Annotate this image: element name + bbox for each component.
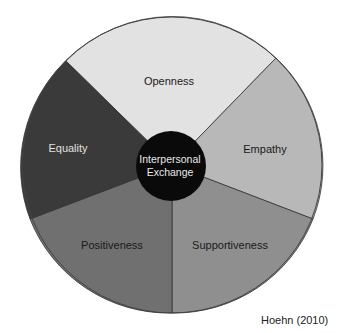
- label-supportiveness: Supportiveness: [192, 239, 268, 251]
- label-empathy: Empathy: [243, 143, 287, 155]
- source-credit: Hoehn (2010): [261, 314, 328, 326]
- center-label-line1: Interpersonal: [139, 153, 200, 165]
- interpersonal-exchange-wheel: Openness Empathy Supportiveness Positive…: [0, 0, 338, 333]
- label-positiveness: Positiveness: [81, 239, 143, 251]
- center-label-line2: Exchange: [147, 166, 194, 178]
- label-equality: Equality: [48, 142, 88, 154]
- label-openness: Openness: [144, 75, 195, 87]
